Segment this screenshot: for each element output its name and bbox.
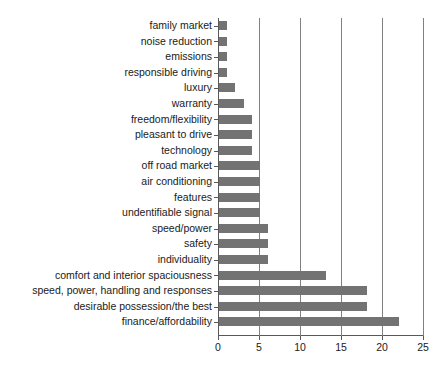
category-tickmark bbox=[214, 88, 218, 89]
category-tickmark bbox=[214, 260, 218, 261]
category-tickmark bbox=[214, 135, 218, 136]
bar-row bbox=[218, 127, 423, 143]
category-tickmark bbox=[214, 26, 218, 27]
x-tick-15 bbox=[341, 336, 342, 340]
category-label: features bbox=[174, 190, 212, 206]
bar-row bbox=[218, 252, 423, 268]
x-tick-label: 5 bbox=[244, 341, 274, 353]
bar bbox=[219, 317, 399, 326]
gridline-25 bbox=[423, 18, 424, 336]
category-label: freedom/flexibility bbox=[131, 112, 212, 128]
bar bbox=[219, 99, 244, 108]
x-tick-label: 15 bbox=[326, 341, 356, 353]
category-label: responsible driving bbox=[124, 65, 212, 81]
bar-row bbox=[218, 268, 423, 284]
bar-row bbox=[218, 314, 423, 330]
bar bbox=[219, 208, 260, 217]
horizontal-bar-chart: family marketnoise reductionemissionsres… bbox=[0, 0, 446, 374]
category-label: pleasant to drive bbox=[135, 127, 212, 143]
x-tick-label: 10 bbox=[285, 341, 315, 353]
category-axis-labels: family marketnoise reductionemissionsres… bbox=[0, 18, 212, 336]
bar-row bbox=[218, 65, 423, 81]
bar-row bbox=[218, 158, 423, 174]
x-tick-label: 20 bbox=[367, 341, 397, 353]
category-tickmark bbox=[214, 151, 218, 152]
x-tick-0 bbox=[218, 336, 219, 340]
bar-row bbox=[218, 236, 423, 252]
bar-row bbox=[218, 299, 423, 315]
category-tickmark bbox=[214, 322, 218, 323]
bar-row bbox=[218, 49, 423, 65]
category-label: finance/affordability bbox=[122, 314, 212, 330]
category-tickmark bbox=[214, 275, 218, 276]
bar bbox=[219, 146, 252, 155]
bar-row bbox=[218, 80, 423, 96]
category-tickmark bbox=[214, 182, 218, 183]
bar-row bbox=[218, 112, 423, 128]
category-label: family market bbox=[150, 18, 212, 34]
category-tickmark bbox=[214, 119, 218, 120]
category-tickmark bbox=[214, 229, 218, 230]
bar-row bbox=[218, 221, 423, 237]
bar bbox=[219, 239, 268, 248]
bar bbox=[219, 302, 367, 311]
x-tick-25 bbox=[423, 336, 424, 340]
category-label: undentifiable signal bbox=[122, 205, 212, 221]
bar bbox=[219, 21, 227, 30]
bar bbox=[219, 286, 367, 295]
category-label: speed/power bbox=[152, 221, 212, 237]
plot-area bbox=[218, 18, 423, 336]
bar bbox=[219, 37, 227, 46]
bar bbox=[219, 224, 268, 233]
bar bbox=[219, 271, 326, 280]
x-tick-label: 25 bbox=[408, 341, 438, 353]
category-tickmark bbox=[214, 197, 218, 198]
category-tickmark bbox=[214, 291, 218, 292]
category-label: emissions bbox=[165, 49, 212, 65]
category-tickmark bbox=[214, 307, 218, 308]
bar bbox=[219, 130, 252, 139]
bar bbox=[219, 83, 235, 92]
category-label: warranty bbox=[172, 96, 212, 112]
bar bbox=[219, 68, 227, 77]
category-label: technology bbox=[161, 143, 212, 159]
category-label: desirable possession/the best bbox=[74, 299, 212, 315]
category-tickmark bbox=[214, 73, 218, 74]
bar bbox=[219, 255, 268, 264]
category-label: luxury bbox=[184, 80, 212, 96]
x-tick-label: 0 bbox=[203, 341, 233, 353]
category-tickmark bbox=[214, 213, 218, 214]
bar-row bbox=[218, 143, 423, 159]
bar-row bbox=[218, 174, 423, 190]
bar-row bbox=[218, 190, 423, 206]
category-tickmark bbox=[214, 244, 218, 245]
category-label: individuality bbox=[158, 252, 212, 268]
bar-row bbox=[218, 283, 423, 299]
category-tickmark bbox=[214, 41, 218, 42]
bar bbox=[219, 177, 260, 186]
x-tick-10 bbox=[300, 336, 301, 340]
category-label: noise reduction bbox=[141, 34, 212, 50]
bar-rows bbox=[218, 18, 423, 336]
bar bbox=[219, 161, 260, 170]
bar-row bbox=[218, 205, 423, 221]
category-label: air conditioning bbox=[141, 174, 212, 190]
bar bbox=[219, 115, 252, 124]
bar-row bbox=[218, 34, 423, 50]
value-axis-ticks: 0510152025 bbox=[218, 336, 423, 356]
category-label: speed, power, handling and responses bbox=[32, 283, 212, 299]
bar-row bbox=[218, 96, 423, 112]
bar bbox=[219, 193, 260, 202]
x-tick-20 bbox=[382, 336, 383, 340]
category-tickmark bbox=[214, 166, 218, 167]
bar bbox=[219, 52, 227, 61]
category-label: safety bbox=[184, 236, 212, 252]
x-tick-5 bbox=[259, 336, 260, 340]
category-tickmark bbox=[214, 57, 218, 58]
category-label: comfort and interior spaciousness bbox=[55, 268, 212, 284]
category-label: off road market bbox=[142, 158, 212, 174]
category-tickmark bbox=[214, 104, 218, 105]
bar-row bbox=[218, 18, 423, 34]
